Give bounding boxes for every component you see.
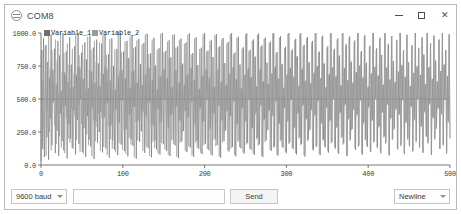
svg-text:300: 300 [281,170,293,178]
svg-text:1000.0: 1000.0 [13,30,37,38]
minimize-icon [395,15,403,16]
svg-text:200: 200 [199,170,211,178]
baud-rate-select[interactable]: 9600 baud [11,189,67,204]
legend-item-variable-2: Variable_2 [92,29,139,37]
line-ending-value: Newline [399,192,436,201]
svg-text:0.0: 0.0 [24,162,36,170]
svg-text:500: 500 [444,170,456,178]
close-button[interactable]: ✕ [433,5,456,26]
svg-text:0: 0 [39,170,43,178]
svg-text:400: 400 [362,170,374,178]
svg-text:750.0: 750.0 [16,63,36,71]
svg-text:500.0: 500.0 [16,96,36,104]
send-button[interactable]: Send [230,189,278,204]
window-title: COM8 [27,11,54,21]
maximize-button[interactable] [410,5,433,26]
plot-area: Variable_1 Variable_2 0.0250.0500.0750.0… [5,27,456,183]
maximize-icon [418,12,425,19]
line-ending-select[interactable]: Newline [394,189,450,204]
legend-swatch-variable-2 [92,30,98,36]
baud-rate-value: 9600 baud [16,192,53,201]
chart-svg: 0.0250.0500.0750.01000.00100200300400500 [5,27,456,183]
legend-swatch-variable-1 [44,30,50,36]
chevron-down-icon [436,190,449,203]
serial-monitor-icon [11,10,22,21]
send-input[interactable] [73,189,225,204]
svg-text:100: 100 [117,170,129,178]
serial-plotter-window: COM8 ✕ Variable_1 Variable_2 0.0250. [4,4,457,210]
legend-label-variable-2: Variable_2 [99,29,139,37]
title-bar: COM8 ✕ [5,5,456,27]
close-icon: ✕ [441,11,449,20]
minimize-button[interactable] [387,5,410,26]
bottom-toolbar: 9600 baud Send Newline [5,183,456,209]
svg-text:250.0: 250.0 [16,129,36,137]
chevron-down-icon [53,190,66,203]
legend-item-variable-1: Variable_1 [44,29,91,37]
legend-label-variable-1: Variable_1 [51,29,91,37]
chart-legend: Variable_1 Variable_2 [44,29,139,37]
window-controls: ✕ [387,5,456,26]
